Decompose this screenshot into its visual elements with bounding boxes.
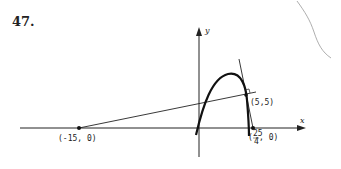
label-25-4-rest: , 0) (259, 133, 278, 142)
point-5-5 (244, 93, 248, 97)
x-axis-arrow-icon (297, 125, 306, 131)
y-axis-arrow-icon (196, 27, 202, 36)
x-axis-label: x (300, 116, 305, 125)
point-neg15 (77, 126, 81, 130)
y-axis-label: y (204, 26, 210, 35)
pencil-mark (297, 1, 331, 58)
label-neg15: (-15, 0) (58, 134, 97, 143)
graph-diagram: x y (-15, 0) (5,5) ( 25 4 , 0) (0, 0, 341, 169)
label-25-4: ( 25 4 , 0) (248, 129, 278, 146)
normal-line (79, 92, 256, 128)
parabola-curve (196, 74, 249, 136)
label-5-5: (5,5) (250, 98, 274, 107)
